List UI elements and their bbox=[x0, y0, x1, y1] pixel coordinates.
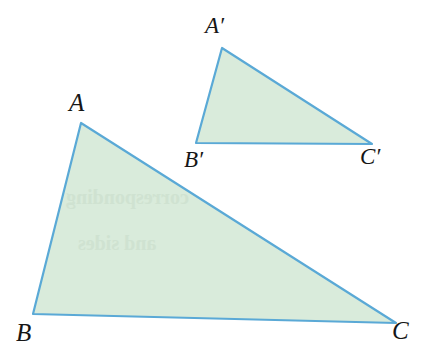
figure-canvas bbox=[0, 0, 426, 355]
vertex-label-a-prime: A′ bbox=[205, 14, 224, 37]
vertex-label-c: C bbox=[392, 318, 409, 343]
vertex-label-c-prime: C′ bbox=[360, 145, 380, 168]
vertex-label-b: B bbox=[16, 320, 31, 345]
geometry-figure: corresponding and sides A B C A′ B′ C′ bbox=[0, 0, 426, 355]
bleed-through-text-2: and sides bbox=[78, 232, 156, 255]
bleed-through-text-1: corresponding bbox=[66, 186, 189, 209]
vertex-label-a: A bbox=[69, 90, 84, 115]
vertex-label-b-prime: B′ bbox=[184, 148, 203, 171]
